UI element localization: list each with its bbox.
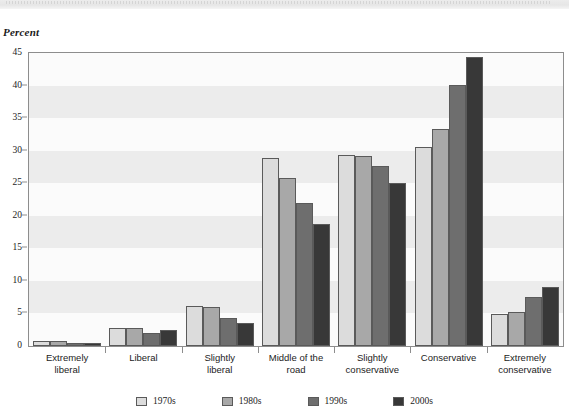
x-axis-category-label-line: Extremely — [29, 352, 105, 364]
plot-area — [28, 52, 564, 347]
scan-artifact-strip — [0, 0, 569, 9]
bar-group — [334, 53, 410, 346]
bar — [338, 155, 355, 346]
legend-swatch-icon — [308, 397, 319, 406]
y-axis-tick-label: 45 — [0, 47, 22, 57]
y-axis-tick-label: 15 — [0, 242, 22, 252]
legend-item: 1970s — [136, 396, 176, 406]
legend-swatch-icon — [136, 397, 147, 406]
x-axis-category-label: Slightlyliberal — [182, 352, 258, 375]
y-axis-tick-label: 20 — [0, 210, 22, 220]
y-axis: 051015202530354045 — [0, 0, 28, 400]
bar — [203, 307, 220, 346]
x-axis-category-label: Liberal — [105, 352, 181, 375]
bar — [389, 183, 406, 346]
bar — [279, 178, 296, 346]
legend-item: 1980s — [222, 396, 262, 406]
bar-group — [29, 53, 105, 346]
scan-artifact-dots — [6, 1, 551, 4]
x-axis-category-label-line: liberal — [29, 364, 105, 376]
bar — [143, 333, 160, 346]
bar-group — [487, 53, 563, 346]
y-axis-tick-label: 40 — [0, 80, 22, 90]
y-axis-tick-mark — [22, 182, 27, 183]
y-axis-tick-label: 5 — [0, 307, 22, 317]
bar — [220, 318, 237, 346]
bar — [542, 287, 559, 346]
x-axis-category-label-line: Extremely — [487, 352, 563, 364]
bar — [126, 328, 143, 346]
chart-legend: 1970s1980s1990s2000s — [0, 396, 569, 406]
bar-group — [410, 53, 486, 346]
x-axis-category-label: Extremelyliberal — [29, 352, 105, 375]
y-axis-tick-mark — [22, 117, 27, 118]
bar — [491, 314, 508, 346]
y-axis-tick-mark — [22, 312, 27, 313]
y-axis-tick-label: 35 — [0, 112, 22, 122]
x-axis-category-label: Slightlyconservative — [334, 352, 410, 375]
legend-swatch-icon — [222, 397, 233, 406]
y-axis-tick-mark — [22, 214, 27, 215]
legend-label: 1980s — [239, 396, 262, 406]
bar — [525, 297, 542, 346]
legend-item: 2000s — [393, 396, 433, 406]
bar-groups — [29, 53, 563, 346]
x-axis-category-label-line: Liberal — [105, 352, 181, 364]
x-axis-category-label-line: road — [258, 364, 334, 376]
x-axis-category-label: Extremelyconservative — [487, 352, 563, 375]
y-axis-tick-label: 10 — [0, 275, 22, 285]
x-axis-category-label-line: conservative — [487, 364, 563, 376]
bar — [432, 129, 449, 346]
bar — [355, 156, 372, 346]
x-axis-category-labels: ExtremelyliberalLiberalSlightlyliberalMi… — [29, 352, 563, 375]
bar — [160, 330, 177, 346]
bar-group — [182, 53, 258, 346]
legend-label: 1990s — [325, 396, 348, 406]
bar — [508, 312, 525, 347]
bar — [109, 328, 126, 346]
bar — [466, 57, 483, 346]
x-axis-category-label-line: Middle of the — [258, 352, 334, 364]
bar — [415, 147, 432, 346]
bar — [186, 306, 203, 346]
y-axis-tick-mark — [22, 84, 27, 85]
x-axis-category-label-line: Conservative — [410, 352, 486, 364]
bar-group — [105, 53, 181, 346]
bar-group — [258, 53, 334, 346]
y-axis-tick-label: 25 — [0, 177, 22, 187]
legend-item: 1990s — [308, 396, 348, 406]
y-axis-tick-mark — [22, 149, 27, 150]
legend-swatch-icon — [393, 397, 404, 406]
y-axis-tick-label: 30 — [0, 145, 22, 155]
x-axis-category-label-line: Slightly — [182, 352, 258, 364]
x-axis-category-label: Conservative — [410, 352, 486, 375]
x-axis-category-label: Middle of theroad — [258, 352, 334, 375]
bar — [313, 224, 330, 346]
bar — [449, 85, 466, 346]
bar — [296, 203, 313, 346]
bar — [237, 323, 254, 346]
bar — [262, 158, 279, 346]
x-axis-category-label-line: conservative — [334, 364, 410, 376]
x-axis-category-label-line: liberal — [182, 364, 258, 376]
x-axis-category-label-line: Slightly — [334, 352, 410, 364]
y-axis-tick-mark — [22, 279, 27, 280]
legend-label: 1970s — [153, 396, 176, 406]
legend-label: 2000s — [410, 396, 433, 406]
bar — [372, 166, 389, 346]
y-axis-tick-mark — [22, 247, 27, 248]
y-axis-tick-label: 0 — [0, 340, 22, 350]
